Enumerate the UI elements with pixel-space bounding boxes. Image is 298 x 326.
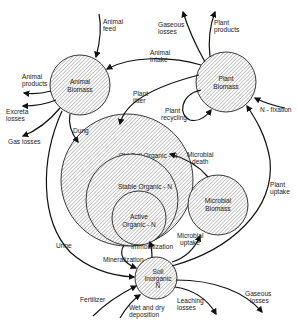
soil-inorganic-label-1: Soil (153, 268, 165, 275)
animal-feed-label-2: feed (103, 25, 116, 32)
plant-recycling-label-2: recycling (161, 114, 187, 122)
active-organic-label-2: Organic - N (122, 221, 156, 229)
microbial-death-label-2: death (192, 158, 209, 165)
active-organic-label-1: Active (130, 213, 148, 220)
mineralization-label: Mineralization (103, 256, 144, 263)
plant-uptake-label-2: uptake (270, 188, 290, 196)
plant-biomass-label-2: Biomass (213, 83, 239, 90)
flow-microbial-uptake: Microbial uptake (172, 232, 204, 262)
animal-products-label-2: products (22, 80, 48, 88)
urine-label: Urine (56, 242, 72, 249)
plant-litter-label-1: Plant (133, 90, 148, 97)
plant-biomass-label-1: Plant (218, 75, 233, 82)
animal-intake-label-1: Animal (150, 49, 171, 56)
pool-microbial-biomass: Microbial Biomass (188, 175, 248, 235)
dung-label: Dung (73, 127, 89, 135)
immobilization-label: Immobilization (131, 243, 173, 250)
pool-active-organic-n: Active Organic - N (112, 191, 166, 245)
pool-soil-inorganic-n: Soil Inorganic N (135, 257, 177, 299)
animal-biomass-label-2: Biomass (67, 86, 93, 93)
flow-plant-products: Plant products (209, 12, 240, 57)
gaseous-losses-top-label-1: Gaseous (158, 21, 185, 28)
excreta-losses-label-1: Excreta (6, 108, 29, 115)
animal-biomass-label-1: Animal (70, 78, 91, 85)
animal-intake-label-2: intake (150, 56, 168, 63)
flow-animal-intake: Animal intake (107, 49, 201, 69)
plant-products-label-2: products (214, 26, 240, 34)
fertilizer-label: Fertilizer (80, 296, 106, 303)
stable-organic-label: Stable Organic - N (118, 183, 172, 191)
plant-products-label-1: Plant (214, 19, 229, 26)
animal-products-label-1: Animal (22, 73, 43, 80)
wet-dry-deposition-label-2: deposition (129, 311, 159, 319)
flow-excreta-losses: Excreta losses (6, 100, 56, 122)
excreta-losses-label-2: losses (6, 115, 25, 122)
pool-animal-biomass: Animal Biomass (50, 55, 110, 115)
plant-uptake-label-1: Plant (270, 181, 285, 188)
plant-recycling-label-1: Plant (165, 107, 180, 114)
flow-animal-feed: Animal feed (96, 14, 124, 57)
leaching-losses-label-2: losses (177, 304, 196, 311)
microbial-uptake-label-1: Microbial (177, 232, 204, 239)
microbial-biomass-label-2: Biomass (205, 205, 231, 212)
microbial-uptake-label-2: uptake (180, 239, 200, 247)
animal-feed-label-1: Animal (103, 18, 124, 25)
microbial-biomass-label-1: Microbial (205, 197, 232, 204)
gaseous-losses-top-label-2: losses (158, 28, 177, 35)
soil-inorganic-label-3: N (156, 282, 161, 289)
n-fixation-label: N - fixation (260, 106, 292, 113)
gaseous-losses-bottom-label-1: Gaseous (245, 290, 272, 297)
microbial-death-label-1: Microbial (187, 151, 214, 158)
nitrogen-cycle-diagram: Animal Biomass Plant Biomass Old Soil Or… (0, 0, 298, 326)
gaseous-losses-bottom-label-2: losses (250, 297, 269, 304)
plant-litter-label-2: litter (133, 97, 146, 104)
flow-animal-products: Animal products (22, 73, 51, 94)
flow-leaching-losses: Leaching losses (175, 287, 216, 314)
gas-losses-label: Gas losses (8, 138, 41, 145)
flow-n-fixation: N - fixation (255, 98, 292, 113)
flow-fertilizer: Fertilizer (80, 286, 136, 316)
